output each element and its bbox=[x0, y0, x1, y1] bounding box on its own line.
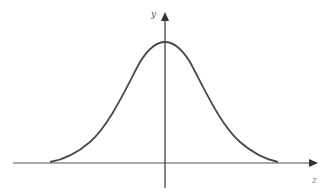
y-axis bbox=[161, 12, 169, 188]
x-axis-arrow-icon bbox=[309, 159, 318, 167]
y-axis-arrow-icon bbox=[161, 12, 169, 21]
normal-curve-diagram bbox=[0, 0, 331, 194]
normal-curve bbox=[50, 42, 278, 162]
x-axis-label: z bbox=[312, 176, 317, 185]
y-axis-label: y bbox=[151, 10, 156, 19]
